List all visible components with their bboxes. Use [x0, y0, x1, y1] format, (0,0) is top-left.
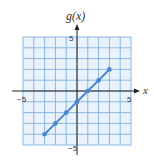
x-max-tick-label: 5: [127, 95, 132, 104]
y-min-tick-label: −5: [68, 144, 78, 153]
y-axis-label: g(x): [66, 9, 85, 23]
data-point: [53, 121, 58, 126]
data-point: [86, 89, 91, 94]
x-min-tick-label: −5: [17, 95, 27, 104]
y-max-tick-label: 5: [69, 34, 74, 43]
y-axis-arrow-icon: [75, 24, 80, 30]
x-axis-label: x: [142, 84, 148, 96]
x-axis-arrow-icon: [134, 89, 140, 94]
data-point: [42, 132, 47, 137]
data-point: [107, 67, 112, 72]
coordinate-plane: g(x) x −5 5 5 −5: [0, 0, 154, 160]
data-point: [75, 100, 80, 105]
data-point: [96, 78, 101, 83]
data-point: [64, 110, 69, 115]
